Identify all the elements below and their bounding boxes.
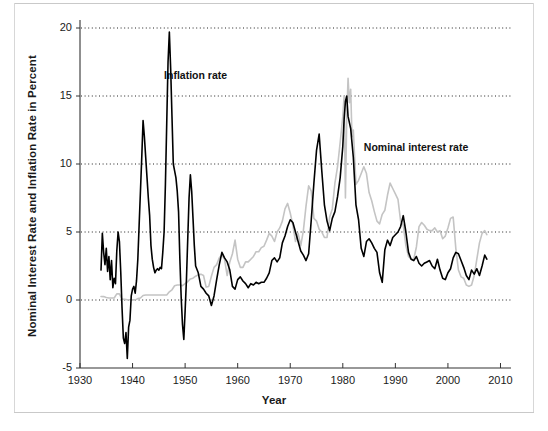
x-tick-label: 1930 [50,374,110,386]
y-axis-label: Nominal Interest Rate and Inflation Rate… [26,16,38,376]
series-line-inflation-rate [101,32,487,358]
axis-lines-group [76,20,511,368]
annotation-nominal-interest-rate: Nominal interest rate [364,141,468,153]
data-series-group [101,32,487,358]
annotation-inflation-rate: Inflation rate [164,69,227,81]
y-tick-label: 5 [32,225,72,237]
x-tick-label: 1950 [155,374,215,386]
y-tick-label: 20 [32,21,72,33]
series-line-nominal-interest-rate [101,78,487,300]
y-tick-label: 15 [32,89,72,101]
x-tick-label: 2000 [418,374,478,386]
x-tick-label: 1980 [313,374,373,386]
y-tick-label: -5 [32,361,72,373]
x-tick-label: 1940 [103,374,163,386]
x-tick-marks-group [80,363,500,368]
x-tick-label: 2010 [470,374,530,386]
x-tick-label: 1970 [260,374,320,386]
x-tick-label: 1960 [208,374,268,386]
x-tick-label: 1990 [365,374,425,386]
chart-figure: Nominal Interest Rate and Inflation Rate… [0,0,548,431]
chart-plot-area [0,0,548,431]
y-tick-label: 0 [32,293,72,305]
y-tick-label: 10 [32,157,72,169]
x-axis-label: Year [0,394,548,406]
